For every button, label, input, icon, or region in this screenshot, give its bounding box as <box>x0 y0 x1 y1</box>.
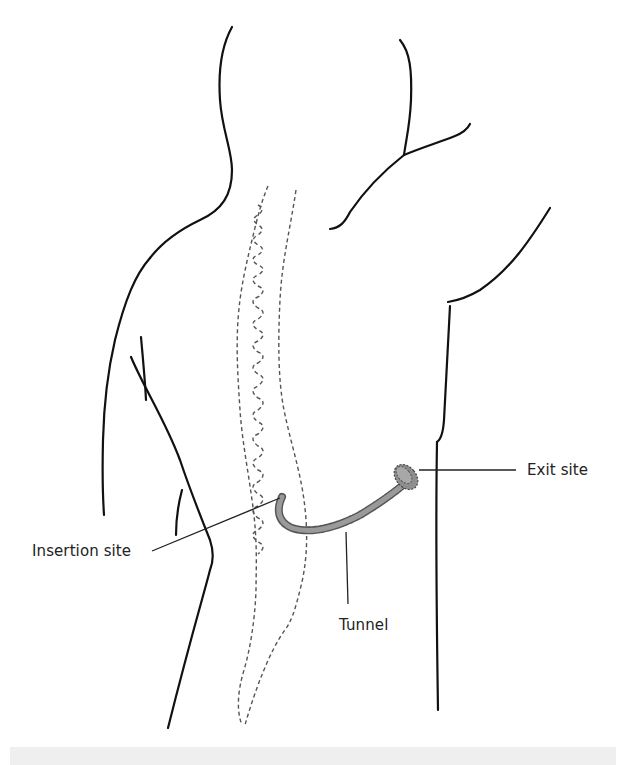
spine-outline <box>237 186 306 725</box>
exit-site-label: Exit site <box>527 461 588 479</box>
catheter <box>279 460 423 530</box>
insertion-site-label: Insertion site <box>32 542 131 560</box>
body-outline <box>103 27 550 728</box>
tunnel-leader <box>346 532 348 604</box>
bottom-band <box>10 747 616 765</box>
catheter-diagram <box>0 0 626 765</box>
tunnel-label: Tunnel <box>339 616 388 634</box>
